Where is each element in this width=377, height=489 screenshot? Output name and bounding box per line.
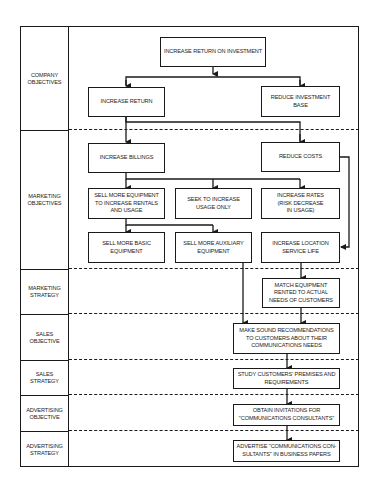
node-sell-auxiliary-equipment: SELL MORE AUXILIARY EQUIPMENT (175, 232, 252, 263)
node-match-equipment: MATCH EQUIPMENT RENTED TO ACTUAL NEEDS O… (262, 278, 340, 308)
node-reduce-investment-base: REDUCE INVESTMENT BASE (261, 86, 340, 117)
node-seek-increase-usage: SEEK TO INCREASE USAGE ONLY (175, 188, 252, 219)
node-reduce-costs: REDUCE COSTS (261, 142, 340, 172)
node-sell-more-equipment: SELL MORE EQUIPMENT TO INCREASE RENTALS … (88, 188, 165, 219)
node-increase-return: INCREASE RETURN (88, 87, 165, 117)
node-obtain-invitations: OBTAIN INVITATIONS FOR "COMMUNICATIONS C… (233, 404, 340, 426)
node-increase-return-on-investment: INCREASE RETURN ON INVESTMENT (160, 37, 266, 67)
node-make-sound-recommendations: MAKE SOUND RECOMMENDATIONS TO CUSTOMERS … (233, 323, 340, 354)
node-advertise-communications-consultants: ADVERTISE "COMMUNICATIONS CON- SULTANTS"… (233, 440, 340, 462)
node-sell-basic-equipment: SELL MORE BASIC EQUIPMENT (88, 232, 165, 263)
node-increase-rates: INCREASE RATES (RISK DECREASE IN USAGE) (261, 188, 340, 219)
node-increase-location-service-life: INCREASE LOCATION SERVICE LIFE (261, 232, 340, 263)
node-study-customers-premises: STUDY CUSTOMERS' PREMISES AND REQUIREMEN… (233, 368, 340, 389)
node-increase-billings: INCREASE BILLINGS (88, 143, 165, 173)
